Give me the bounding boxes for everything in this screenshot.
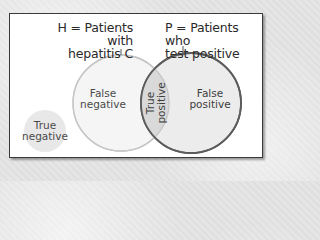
false-positive-label: False positive [183,88,237,110]
false-negative-label: False negative [78,88,128,110]
true-negative-label: True negative [20,120,70,142]
true-positive-label: True positive [145,78,167,128]
set-h-label: H = Patients with hepatitis C [50,21,133,60]
set-p-label: P = Patients who test positive [165,21,265,60]
